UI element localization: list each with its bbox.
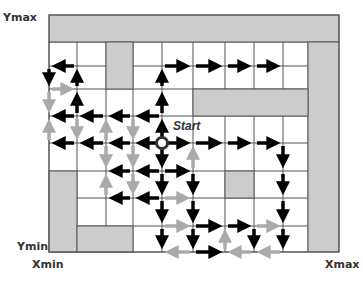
obstacle-middle-band [193,89,308,116]
ymax-label: Ymax [3,11,37,24]
obstacle-upper-pillar [106,42,133,89]
start-node-icon [157,138,168,149]
ymin-label: Ymin [17,240,48,253]
start-label: Start [173,119,200,133]
obstacle-center-square [225,171,254,198]
xmax-label: Xmax [325,258,359,271]
xmin-label: Xmin [32,258,64,271]
obstacle-bottom-block [77,226,133,252]
grid-lines [49,42,308,252]
obstacle-top-band [49,15,339,42]
obstacle-lower-left-column [49,171,77,252]
path-exploration-diagram [0,0,363,283]
obstacle-right-column [308,42,339,252]
